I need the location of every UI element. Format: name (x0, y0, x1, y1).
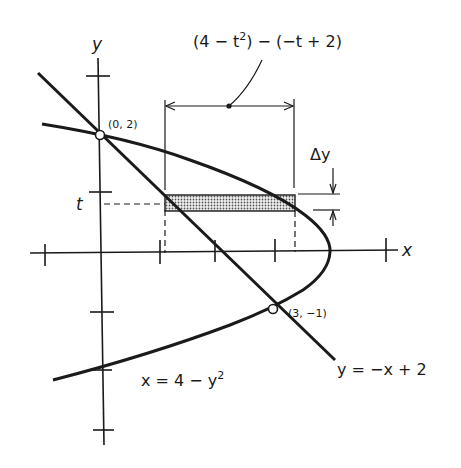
y-axis-label: y (91, 34, 103, 54)
line-equation-label: y = −x + 2 (337, 360, 427, 379)
width-dimension (165, 60, 294, 190)
y-axis (86, 58, 114, 445)
point-0-2 (96, 131, 105, 140)
diagram-canvas: y x (0, 2) (3, −1) t Δy y = −x + 2 x = 4… (0, 0, 461, 468)
parabola-label-main: x = 4 − y (141, 371, 217, 390)
width-expr-part1: (4 − t (193, 32, 239, 51)
width-expression-label: (4 − t2) − (−t + 2) (193, 30, 342, 51)
t-label: t (76, 194, 84, 214)
delta-y-label: Δy (310, 145, 330, 164)
point-label-3-neg1: (3, −1) (288, 307, 327, 320)
delta-y-dimension (298, 168, 340, 226)
point-label-0-2: (0, 2) (108, 118, 138, 131)
parabola-equation-label: x = 4 − y2 (141, 369, 224, 390)
x-axis-label: x (401, 240, 413, 260)
point-3-neg1 (269, 305, 278, 314)
parabola-label-exp: 2 (217, 369, 224, 382)
dimension-dot (226, 103, 231, 108)
width-expr-part2: ) − (−t + 2) (246, 32, 342, 51)
width-expr-sup: 2 (239, 30, 246, 43)
